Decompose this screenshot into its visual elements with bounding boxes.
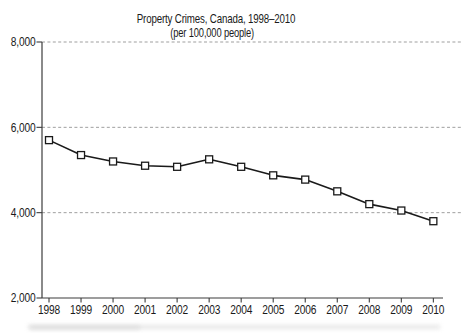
data-point-marker — [174, 163, 181, 170]
y-tick-label: 8,000 — [11, 35, 36, 48]
data-line — [49, 140, 433, 221]
data-point-marker — [238, 163, 245, 170]
x-tick-label: 2003 — [198, 303, 220, 316]
data-point-marker — [206, 156, 213, 163]
y-axis-tick-labels: 2,0004,0006,0008,000 — [11, 35, 36, 304]
x-axis-tick-labels: 1998199920002001200220032004200520062007… — [38, 303, 444, 316]
x-tick-label: 2006 — [294, 303, 316, 316]
data-point-marker — [110, 158, 117, 165]
y-tick-label: 6,000 — [11, 121, 36, 134]
chart-subtitle: (per 100,000 people) — [170, 26, 254, 39]
x-tick-label: 2005 — [262, 303, 284, 316]
chart-page: Property Crimes, Canada, 1998–2010 (per … — [0, 0, 467, 333]
data-point-marker — [302, 176, 309, 183]
data-point-marker — [270, 172, 277, 179]
data-series — [46, 137, 437, 225]
data-point-marker — [78, 152, 85, 159]
x-tick-label: 2001 — [134, 303, 156, 316]
x-tick-label: 2004 — [230, 303, 252, 316]
x-tick-label: 2002 — [166, 303, 188, 316]
data-point-marker — [334, 188, 341, 195]
data-point-marker — [430, 218, 437, 225]
data-point-marker — [398, 207, 405, 214]
data-point-marker — [142, 162, 149, 169]
x-tick-label: 2000 — [102, 303, 124, 316]
y-tick-label: 2,000 — [11, 291, 36, 304]
x-tick-label: 2009 — [390, 303, 412, 316]
axes — [37, 42, 444, 303]
x-tick-label: 2007 — [326, 303, 348, 316]
x-tick-label: 2010 — [422, 303, 444, 316]
x-tick-label: 1999 — [70, 303, 92, 316]
x-tick-label: 2008 — [358, 303, 380, 316]
data-point-marker — [46, 137, 53, 144]
x-tick-label: 1998 — [38, 303, 60, 316]
y-tick-label: 4,000 — [11, 206, 36, 219]
data-point-marker — [366, 201, 373, 208]
property-crimes-line-chart: Property Crimes, Canada, 1998–2010 (per … — [0, 0, 467, 333]
gridlines — [42, 42, 462, 213]
chart-title: Property Crimes, Canada, 1998–2010 — [137, 12, 296, 25]
